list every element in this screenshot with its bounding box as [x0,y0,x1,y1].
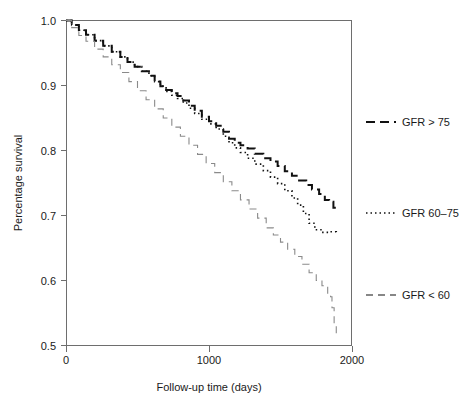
y-axis-ticks: 0.50.60.70.80.91.0 [41,15,67,352]
x-axis-title: Follow-up time (days) [156,381,261,393]
y-tick-label: 0.8 [41,145,56,157]
y-tick-label: 0.6 [41,275,56,287]
x-tick-label: 2000 [340,354,364,366]
series-line-gfr-60-75 [66,21,336,233]
legend-label-1: GFR 60–75 [402,207,459,219]
y-tick-label: 0.9 [41,80,56,92]
y-tick-label: 0.5 [41,340,56,352]
y-tick-label: 1.0 [41,15,56,27]
y-axis-title: Percentage survival [12,135,24,232]
series-group [66,21,336,334]
series-line-gfr-60 [66,21,336,334]
x-tick-label: 1000 [197,354,221,366]
survival-chart-figure: 0.50.60.70.80.91.0 010002000 Percentage … [0,0,472,415]
legend-label-0: GFR > 75 [402,116,450,128]
kaplan-meier-plot: 0.50.60.70.80.91.0 010002000 Percentage … [0,0,472,415]
x-tick-label: 0 [63,354,69,366]
plot-frame [66,21,352,346]
legend-label-2: GFR < 60 [402,289,450,301]
chart-legend: GFR > 75GFR 60–75GFR < 60 [366,116,459,301]
x-axis-ticks: 010002000 [63,346,364,367]
y-tick-label: 0.7 [41,210,56,222]
